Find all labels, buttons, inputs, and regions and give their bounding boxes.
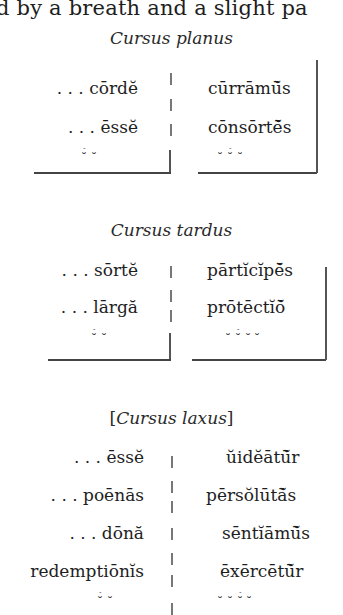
heading-cursus-tardus: Cursus tardus — [0, 220, 343, 240]
tardus-right-word-1: pārtĭcĭpē̆s — [207, 260, 293, 280]
caesura-dash — [171, 481, 173, 493]
box-bottom-rule — [198, 172, 317, 174]
box-bottom-rule — [192, 359, 326, 361]
caesura-dash — [171, 501, 173, 513]
caesura-dash — [171, 553, 173, 565]
caesura-dash — [170, 290, 172, 302]
laxus-left-stress-marks: ⏑́ ⏑ — [98, 590, 113, 604]
tardus-left-word-2: . . . lārgă — [61, 297, 138, 317]
body-text-line: d by a breath and a slight pa — [0, 0, 308, 20]
box-bottom-rule — [34, 172, 171, 174]
box-left-edge — [169, 333, 171, 359]
box-right-edge — [316, 60, 318, 173]
laxus-right-word-1: ŭidĕātū̆r — [226, 447, 299, 467]
planus-right-word-2: cōnsōrtē̆s — [208, 117, 291, 137]
caesura-dash — [170, 310, 172, 322]
planus-left-word-1: . . . cōrdĕ — [57, 78, 138, 98]
caesura-dash — [171, 575, 173, 587]
laxus-left-word-2: . . . poēnās — [51, 485, 144, 505]
laxus-left-word-3: . . . dōnă — [69, 523, 144, 543]
laxus-right-stress-marks: ⏑ ⏑ ⏑́ ⏑ — [218, 590, 252, 604]
laxus-right-word-3: sēntĭāmū̆s — [222, 523, 310, 543]
caesura-dash — [171, 456, 173, 468]
box-right-edge — [325, 267, 327, 360]
laxus-left-word-4: redemptiōnĭs — [30, 561, 144, 581]
caesura-dash — [170, 73, 172, 85]
heading-cursus-laxus: [Cursus laxus] — [0, 408, 343, 428]
caesura-dash — [170, 99, 172, 111]
planus-left-stress-marks: ⏑́ ⏑ — [82, 146, 97, 160]
laxus-right-word-2: pērsŏlūtā̆s — [206, 485, 296, 505]
laxus-left-word-1: . . . ēssĕ — [74, 447, 144, 467]
caesura-dash — [171, 603, 173, 615]
caesura-dash — [170, 266, 172, 278]
caesura-dash — [170, 124, 172, 136]
planus-left-word-2: . . . ēssĕ — [68, 117, 138, 137]
laxus-right-word-4: ēxērcētū̆r — [220, 561, 303, 581]
heading-cursus-planus: Cursus planus — [0, 28, 343, 48]
box-bottom-rule — [48, 359, 171, 361]
tardus-left-word-1: . . . sōrtĕ — [62, 260, 138, 280]
tardus-right-word-2: prōtēctĭō̆ — [207, 297, 285, 317]
tardus-left-stress-marks: ⏑́ ⏑ — [92, 327, 107, 341]
caesura-dash — [171, 528, 173, 540]
planus-right-word-1: cūrrāmū̆s — [208, 78, 291, 98]
tardus-right-stress-marks: ⏑ ⏑́ ⏑ ⏑ — [226, 327, 260, 341]
planus-right-stress-marks: ⏑ ⏑́ ⏑ — [218, 146, 243, 160]
box-left-edge — [169, 150, 171, 172]
